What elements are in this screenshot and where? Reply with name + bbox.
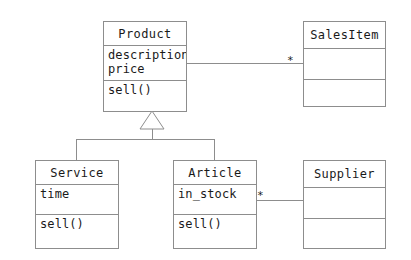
class-name-supplier: Supplier	[304, 161, 385, 187]
generalization-triangle-icon	[139, 110, 165, 130]
class-box-article[interactable]: Article in_stock sell()	[173, 160, 257, 249]
attributes-compartment-product: description price	[104, 45, 186, 80]
operations-compartment-supplier	[304, 218, 385, 248]
class-box-service[interactable]: Service time sell()	[35, 160, 119, 249]
operations-compartment-article: sell()	[174, 214, 256, 248]
attribute-item: time	[40, 188, 114, 202]
operation-item: sell()	[40, 218, 114, 232]
class-name-salesitem: SalesItem	[304, 22, 385, 48]
attribute-item: in_stock	[178, 188, 252, 202]
operation-item: sell()	[108, 84, 182, 98]
attributes-compartment-supplier	[304, 187, 385, 218]
operations-compartment-service: sell()	[36, 214, 118, 248]
operations-compartment-salesitem	[304, 79, 385, 106]
class-box-product[interactable]: Product description price sell()	[103, 21, 187, 112]
multiplicity-article: *	[257, 190, 264, 201]
class-box-salesitem[interactable]: SalesItem	[303, 21, 386, 107]
attributes-compartment-service: time	[36, 184, 118, 214]
generalization-branch-article[interactable]	[214, 139, 215, 161]
attributes-compartment-salesitem	[304, 48, 385, 79]
class-name-product: Product	[104, 22, 186, 45]
attribute-item: price	[108, 63, 182, 77]
operation-item: sell()	[178, 218, 252, 232]
attribute-item: description	[108, 49, 182, 63]
operations-compartment-product: sell()	[104, 80, 186, 111]
class-name-article: Article	[174, 161, 256, 184]
generalization-branch-service[interactable]	[76, 139, 77, 161]
attributes-compartment-article: in_stock	[174, 184, 256, 214]
association-line-product-salesitem[interactable]	[186, 63, 303, 64]
class-name-service: Service	[36, 161, 118, 184]
multiplicity-salesitem: *	[287, 55, 294, 66]
class-box-supplier[interactable]: Supplier	[303, 160, 386, 249]
uml-class-diagram-canvas: * * Product description price sell() Sal…	[0, 0, 411, 260]
generalization-bus-line[interactable]	[76, 139, 214, 140]
